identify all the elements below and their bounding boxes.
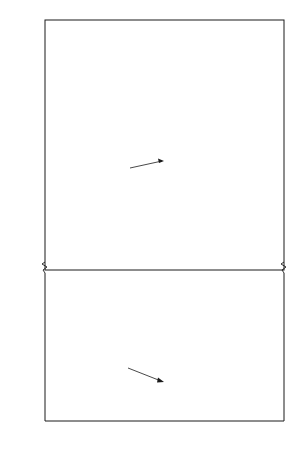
t2-pointer-arrow xyxy=(128,368,161,381)
t2-panel xyxy=(45,273,284,421)
t1-series-label xyxy=(130,159,164,169)
relaxation-time-chart xyxy=(0,0,303,458)
t1-panel xyxy=(45,20,284,270)
t1-plot-frame xyxy=(45,20,284,270)
arrowhead-icon xyxy=(157,378,164,383)
axis-break-marks xyxy=(42,262,286,273)
t1-pointer-arrow xyxy=(130,161,162,168)
t2-series-label xyxy=(128,368,164,383)
arrowhead-icon xyxy=(158,159,164,164)
